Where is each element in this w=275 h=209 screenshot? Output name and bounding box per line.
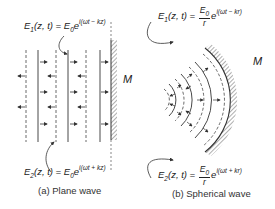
incident-leader (59, 36, 67, 54)
eq-fraction: E0r (199, 6, 210, 28)
eq-args: (z, t) = (168, 169, 198, 180)
plane-wave-caption: (a) Plane wave (38, 185, 101, 196)
eq-subscript: 0 (205, 10, 209, 17)
incident-wavefronts-spherical (169, 62, 212, 138)
reflected-wavefronts (26, 50, 86, 142)
plane-mirror-label: M (123, 73, 132, 85)
eq-exponent: i(ωt + kr) (216, 167, 241, 174)
eq-subscript: 0 (205, 169, 209, 176)
spherical-mirror-label: M (253, 55, 262, 67)
eq-exponent: i(ωt − kr) (216, 8, 241, 15)
eq-args: (z, t) = (34, 166, 64, 177)
incident-wavefronts (38, 50, 100, 142)
eq-denominator: r (199, 178, 210, 187)
spherical-wave-caption: (b) Spherical wave (172, 188, 251, 199)
spherical-incident-equation: E1(z, t) = E0rei(ωt − kr) (158, 6, 242, 28)
spherical-reflected-equation: E2(z, t) = E0rei(ωt + kr) (158, 165, 242, 187)
eq-args: (z, t) = (34, 20, 64, 31)
spherical-wave-diagram (147, 22, 237, 178)
eq-fraction: E0r (199, 165, 210, 187)
plane-wave-diagram (18, 22, 117, 172)
reflected-arrows (18, 76, 85, 107)
eq-exponent: i(ωt − kz) (79, 18, 106, 25)
radial-arrows (170, 68, 220, 132)
eq-exponent: i(ωt + kz) (79, 164, 106, 171)
plane-incident-equation: E1(z, t) = E0ei(ωt − kz) (24, 19, 106, 33)
plane-mirror (111, 40, 117, 140)
incident-arrows (40, 62, 108, 124)
plane-reflected-equation: E2(z, t) = E0ei(ωt + kz) (24, 165, 106, 179)
eq-args: (z, t) = (168, 10, 198, 21)
eq-denominator: r (199, 19, 210, 28)
